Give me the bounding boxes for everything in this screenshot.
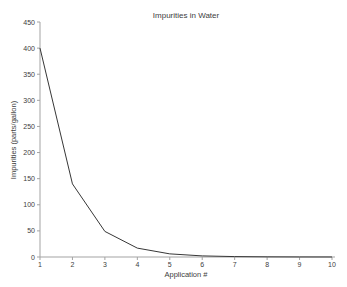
y-tick-label: 0 xyxy=(31,254,35,261)
chart-title: Impurities in Water xyxy=(153,11,220,20)
x-tick-label: 7 xyxy=(233,261,237,268)
x-tick-label: 5 xyxy=(168,261,172,268)
x-tick-label: 10 xyxy=(328,261,336,268)
x-tick-label: 3 xyxy=(103,261,107,268)
line-plot: Impurities in Water 12345678910050100150… xyxy=(0,0,347,287)
y-tick-label: 150 xyxy=(23,175,35,182)
x-tick-label: 6 xyxy=(200,261,204,268)
data-series-line xyxy=(40,48,332,257)
axes: 12345678910050100150200250300350400450 xyxy=(23,19,336,269)
x-tick-label: 2 xyxy=(70,261,74,268)
x-axis-label: Application # xyxy=(165,270,209,279)
y-tick-label: 200 xyxy=(23,149,35,156)
x-tick-label: 8 xyxy=(265,261,269,268)
x-tick-label: 1 xyxy=(38,261,42,268)
y-tick-label: 350 xyxy=(23,71,35,78)
y-axis-label: Impurities (parts/gallon) xyxy=(9,100,18,179)
data-series xyxy=(40,48,332,257)
chart-figure: Impurities in Water 12345678910050100150… xyxy=(0,0,347,287)
y-tick-label: 400 xyxy=(23,45,35,52)
y-tick-label: 300 xyxy=(23,97,35,104)
y-tick-label: 450 xyxy=(23,19,35,26)
y-tick-label: 250 xyxy=(23,123,35,130)
x-tick-label: 4 xyxy=(135,261,139,268)
y-tick-label: 100 xyxy=(23,201,35,208)
y-tick-label: 50 xyxy=(27,227,35,234)
x-tick-label: 9 xyxy=(298,261,302,268)
